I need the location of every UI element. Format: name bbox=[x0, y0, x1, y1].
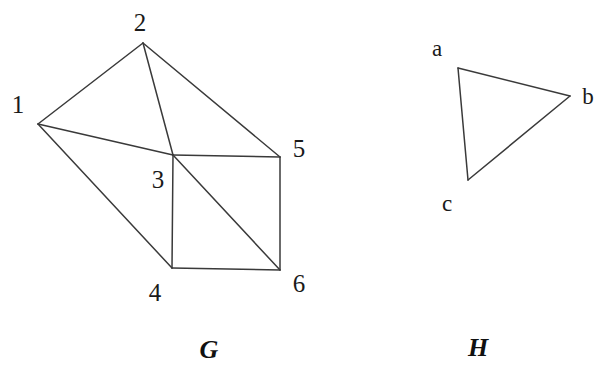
graph-drawing-surface bbox=[0, 0, 607, 384]
edge-4-6 bbox=[172, 268, 280, 270]
vertex-label-2: 2 bbox=[134, 10, 147, 35]
graph-g-edges bbox=[38, 43, 280, 270]
vertex-label-6: 6 bbox=[293, 271, 306, 296]
edge-3-4 bbox=[172, 155, 173, 268]
vertex-label-b: b bbox=[582, 85, 594, 108]
graph-h-edges bbox=[458, 68, 570, 180]
vertex-label-a: a bbox=[432, 37, 442, 60]
edge-1-3 bbox=[38, 124, 173, 155]
edge-1-4 bbox=[38, 124, 172, 268]
vertex-label-c: c bbox=[442, 192, 452, 215]
edge-a-b bbox=[458, 68, 570, 96]
edge-c-a bbox=[458, 68, 468, 180]
graph-caption-g: G bbox=[200, 337, 219, 363]
edge-2-5 bbox=[143, 43, 280, 157]
vertex-label-1: 1 bbox=[12, 92, 25, 117]
edge-1-2 bbox=[38, 43, 143, 124]
graph-caption-h: H bbox=[468, 335, 488, 361]
edge-b-c bbox=[468, 96, 570, 180]
vertex-label-5: 5 bbox=[293, 136, 306, 161]
edge-2-3 bbox=[143, 43, 173, 155]
edge-3-5 bbox=[173, 155, 280, 157]
figure-canvas: 123456GabcH bbox=[0, 0, 607, 384]
vertex-label-4: 4 bbox=[149, 280, 162, 305]
edge-3-6 bbox=[173, 155, 280, 270]
vertex-label-3: 3 bbox=[152, 167, 165, 192]
